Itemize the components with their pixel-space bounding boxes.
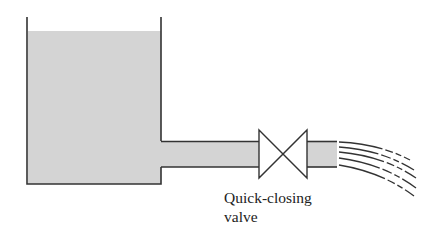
valve-label-line1: Quick-closing xyxy=(224,188,312,207)
tank-water xyxy=(28,31,161,184)
tank-pipe-diagram xyxy=(0,0,436,241)
pipe-water-upstream xyxy=(161,142,259,167)
valve-label-line2: valve xyxy=(224,207,312,226)
pipe-water-downstream xyxy=(307,142,337,167)
quick-closing-valve-icon xyxy=(259,130,307,178)
valve-label: Quick-closing valve xyxy=(224,188,312,226)
outflow-jet xyxy=(339,142,416,196)
